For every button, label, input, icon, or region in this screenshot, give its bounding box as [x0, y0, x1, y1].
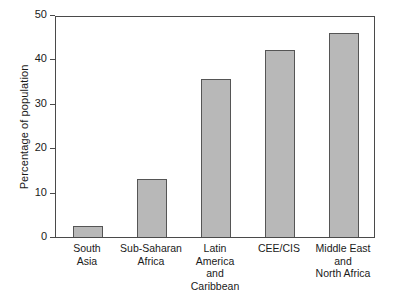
- bar: [265, 50, 295, 237]
- y-axis-title: Percentage of population: [16, 16, 32, 238]
- y-axis-tick-label: 0: [41, 230, 47, 242]
- x-axis-category-label: Latin America and Caribbean: [183, 242, 247, 292]
- bar: [329, 33, 359, 237]
- x-axis-category-label: Middle East and North Africa: [311, 242, 375, 280]
- y-axis-tick-label: 50: [35, 8, 47, 20]
- x-axis-category-label: CEE/CIS: [247, 242, 311, 255]
- plot-area: [55, 16, 375, 238]
- y-axis-tick-label: 20: [35, 141, 47, 153]
- bar: [73, 226, 103, 237]
- x-axis-category-label: South Asia: [55, 242, 119, 267]
- y-axis-tick-label: 40: [35, 52, 47, 64]
- bar-chart-figure: Percentage of population 01020304050 Sou…: [0, 0, 399, 301]
- y-axis-tick-label: 10: [35, 186, 47, 198]
- bar: [137, 179, 167, 237]
- bar: [201, 79, 231, 237]
- x-axis-category-label: Sub-Saharan Africa: [119, 242, 183, 267]
- y-axis-tick-label: 30: [35, 97, 47, 109]
